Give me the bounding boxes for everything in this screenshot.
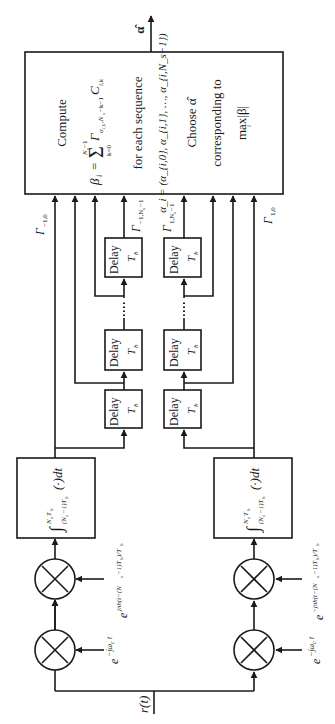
multiplier-carrier-left xyxy=(35,630,75,670)
svg-text:T: T xyxy=(125,407,137,414)
multiplier-carrier-right xyxy=(234,630,274,670)
svg-text:e: e xyxy=(116,612,130,618)
svg-text:−1,0: −1,0 xyxy=(41,214,49,227)
svg-text:T: T xyxy=(185,348,197,355)
svg-text:T: T xyxy=(125,255,137,262)
svg-text:)/T: )/T xyxy=(115,548,123,558)
svg-text:b: b xyxy=(132,344,140,348)
svg-text:b: b xyxy=(192,403,200,407)
compute-label: Compute xyxy=(54,99,69,147)
svg-text:T: T xyxy=(125,348,137,355)
svg-text:−jπh(t−(N: −jπh(t−(N xyxy=(311,583,319,613)
svg-text:b: b xyxy=(192,251,200,255)
svg-text:−1,N: −1,N xyxy=(137,210,145,224)
svg-text:s: s xyxy=(141,208,146,210)
branch-minus-one: e −jω c t e jπh(t−(N s −1)T b )/T b ∫ N … xyxy=(17,196,146,691)
svg-text:Delay: Delay xyxy=(167,338,181,367)
svg-text:b: b xyxy=(132,251,140,255)
svg-text:,N: ,N xyxy=(97,116,105,123)
svg-text:Γ: Γ xyxy=(87,133,102,142)
svg-text:Delay: Delay xyxy=(167,245,181,274)
svg-text:s: s xyxy=(64,515,69,517)
svg-text:1,0: 1,0 xyxy=(269,207,277,216)
svg-text:−1)T: −1)T xyxy=(311,559,319,575)
svg-text:−k−1: −k−1 xyxy=(97,97,105,112)
gamma-minus1-last-label: Γ −1,N s −1 xyxy=(129,199,146,233)
svg-text:−1: −1 xyxy=(137,199,145,207)
gamma-minus1-0-label: Γ −1,0 xyxy=(33,214,49,236)
svg-text:Γ: Γ xyxy=(129,224,143,233)
svg-text:s: s xyxy=(119,576,124,578)
phase-label-right: e −jπh(t−(N s −1)T b )/T b xyxy=(311,543,326,620)
svg-text:e: e xyxy=(107,658,121,664)
svg-text:−1)T: −1)T xyxy=(115,559,123,575)
svg-text:(·)dt: (·)dt xyxy=(50,468,65,490)
svg-text:1,N: 1,N xyxy=(168,214,176,224)
svg-text:t: t xyxy=(105,636,114,639)
alpha-sequence-formula: α_i = (α_{i,0}, α_{i,1}, …, α_{i,N_s−1}) xyxy=(156,33,169,213)
svg-text:(·)dt: (·)dt xyxy=(247,468,262,490)
input-signal: r(t) xyxy=(55,691,254,714)
phase-label-left: e jπh(t−(N s −1)T b )/T b xyxy=(115,543,130,618)
svg-text:T: T xyxy=(185,255,197,262)
svg-text:)/T: )/T xyxy=(311,548,319,558)
svg-text:Γ: Γ xyxy=(33,227,47,236)
svg-text:e: e xyxy=(312,614,326,620)
svg-text:Γ: Γ xyxy=(261,216,275,225)
svg-text:s: s xyxy=(261,515,266,517)
svg-text:b: b xyxy=(192,344,200,348)
svg-text:−jω: −jω xyxy=(105,643,114,657)
carrier-label-right: e −jω c t xyxy=(307,636,323,664)
svg-text:b: b xyxy=(315,543,320,546)
choose-alpha-label: Choose α̂ xyxy=(184,95,199,147)
svg-text:α̂: α̂ xyxy=(132,23,147,33)
svg-text:=: = xyxy=(87,163,102,170)
svg-text:−1: −1 xyxy=(168,203,176,211)
svg-text:−jω: −jω xyxy=(307,643,316,657)
svg-text:Delay: Delay xyxy=(167,397,181,426)
svg-text:β: β xyxy=(87,178,102,186)
svg-text:b: b xyxy=(119,543,124,546)
corresponding-to-label: corresponding to xyxy=(209,79,224,167)
svg-text:t: t xyxy=(307,636,316,639)
svg-text:b: b xyxy=(132,403,140,407)
svg-text:i: i xyxy=(245,125,253,127)
svg-text:T: T xyxy=(185,407,197,414)
carrier-label-left: e −jω c t xyxy=(105,636,121,664)
max-beta-label: max|β| xyxy=(234,106,249,140)
svg-text:C: C xyxy=(87,86,102,95)
svg-text:Delay: Delay xyxy=(107,338,121,367)
svg-text:s: s xyxy=(172,212,177,214)
svg-text:Delay: Delay xyxy=(107,245,121,274)
svg-text:−1)T: −1)T xyxy=(257,498,265,514)
output-label: α̂ xyxy=(132,23,147,33)
multiplier-phase-right xyxy=(234,559,274,599)
svg-text:s: s xyxy=(101,113,106,115)
svg-text:−1)T: −1)T xyxy=(60,498,68,514)
svg-text:e: e xyxy=(309,658,323,664)
svg-text:c: c xyxy=(109,641,115,644)
svg-text:Γ: Γ xyxy=(160,224,174,233)
branch-plus-one: e −jω c t e −jπh(t−(N s −1)T b )/T b ∫ N… xyxy=(160,196,326,691)
svg-text:i: i xyxy=(95,175,104,177)
input-label: r(t) xyxy=(136,696,151,713)
svg-text:k=0: k=0 xyxy=(105,145,113,156)
svg-text:s: s xyxy=(315,576,320,578)
svg-text:s: s xyxy=(246,517,251,519)
svg-text:i,k: i,k xyxy=(97,78,105,86)
svg-text:s: s xyxy=(49,517,54,519)
block-diagram: α̂ Compute β i = Σ N s −1 k=0 Γ α i,k ,N… xyxy=(0,0,335,724)
svg-text:jπh(t−(N: jπh(t−(N xyxy=(115,586,123,612)
gamma-plus1-0-label: Γ 1,0 xyxy=(261,207,277,225)
for-each-sequence-label: for each sequence xyxy=(130,76,145,169)
svg-text:Delay: Delay xyxy=(107,397,121,426)
svg-text:c: c xyxy=(311,641,317,644)
multiplier-phase-left xyxy=(35,559,75,599)
